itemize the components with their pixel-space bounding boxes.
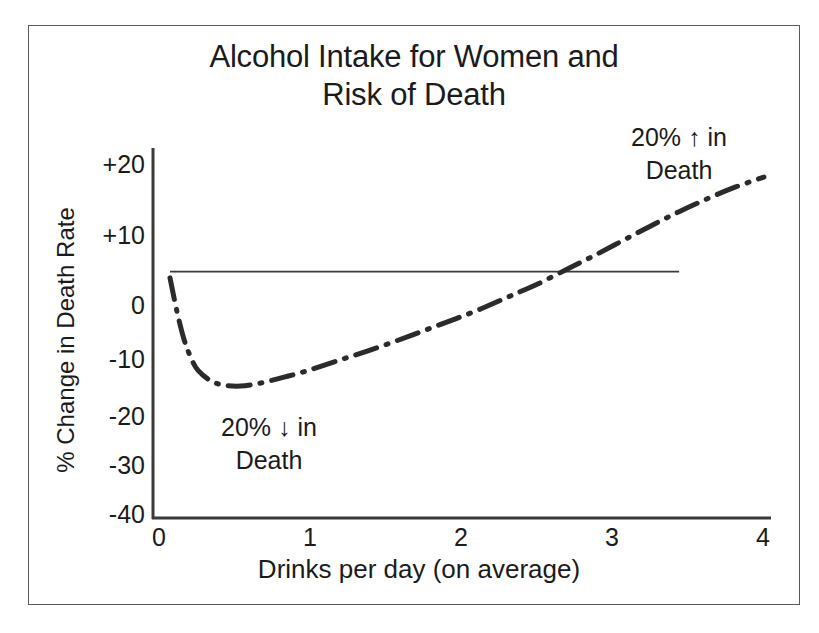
data-series-line	[170, 177, 764, 386]
figure-frame: Alcohol Intake for Women and Risk of Dea…	[28, 25, 800, 605]
plot-area	[29, 26, 801, 606]
